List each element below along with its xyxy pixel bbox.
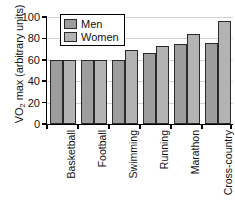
bar-group xyxy=(174,17,200,124)
x-axis-label-line: Swimming xyxy=(127,130,139,178)
x-axis-label-line: Running xyxy=(158,130,170,169)
bar-marathon-women xyxy=(187,34,200,124)
x-axis-tick xyxy=(108,124,110,129)
bar-group xyxy=(143,17,169,124)
y-axis-title-pre: VO xyxy=(13,108,25,124)
x-axis-label-line: Cross-country xyxy=(222,130,234,195)
x-axis-label-running: Running xyxy=(159,130,170,169)
x-axis-label-line: Football xyxy=(96,130,108,167)
x-axis-tick xyxy=(77,124,79,129)
x-axis-tick xyxy=(201,124,203,129)
legend-swatch-men-icon xyxy=(64,19,77,29)
x-axis-tick xyxy=(230,124,232,129)
x-axis-label-cross-country-skiing: Cross-countryskiing xyxy=(223,130,235,195)
x-axis-label-swimming: Swimming xyxy=(128,130,139,178)
bar-marathon-men xyxy=(174,44,187,124)
bar-swimming-men xyxy=(112,60,125,124)
bar-football-men xyxy=(81,60,94,124)
bar-cross-country-skiing-women xyxy=(218,21,231,124)
bar-basketball-men xyxy=(50,60,63,124)
y-axis-tick-label: 20 xyxy=(28,97,40,109)
x-axis-ticks xyxy=(46,124,232,129)
x-axis-label-line: Basketball xyxy=(65,130,77,178)
x-axis-labels: BasketballFootballSwimmingRunningMaratho… xyxy=(46,130,232,202)
x-axis-label-line: Marathon xyxy=(189,130,201,174)
vo2max-bar-chart: VO2 max (arbitrary units) 020406080100 B… xyxy=(0,0,234,202)
x-axis-tick xyxy=(46,124,48,129)
x-axis-label-marathon: Marathon xyxy=(190,130,201,174)
x-axis-tick xyxy=(170,124,172,129)
y-axis-tick-label: 40 xyxy=(28,75,40,87)
bar-swimming-women xyxy=(125,50,138,124)
legend-label-men: Men xyxy=(81,18,102,30)
y-axis-tick-label: 100 xyxy=(22,11,40,23)
legend-label-women: Women xyxy=(81,31,119,43)
legend-item-men: Men xyxy=(64,17,119,30)
bar-group xyxy=(205,17,231,124)
y-axis-tick-label: 80 xyxy=(28,32,40,44)
bar-cross-country-skiing-men xyxy=(205,43,218,124)
bar-football-women xyxy=(94,60,107,124)
legend: Men Women xyxy=(60,14,125,46)
bar-running-men xyxy=(143,53,156,124)
bar-running-women xyxy=(156,46,169,124)
x-axis-label-football: Football xyxy=(97,130,108,167)
bar-basketball-women xyxy=(63,60,76,124)
x-axis-tick xyxy=(139,124,141,129)
y-axis-title-subscript: 2 xyxy=(18,103,27,107)
y-axis-tick-label: 60 xyxy=(28,54,40,66)
legend-item-women: Women xyxy=(64,30,119,43)
legend-swatch-women-icon xyxy=(64,32,77,42)
x-axis-label-basketball: Basketball xyxy=(66,130,77,178)
y-axis-tick-label: 0 xyxy=(34,118,40,130)
